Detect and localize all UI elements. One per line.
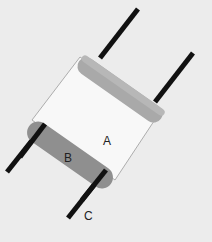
- label-a: A: [103, 134, 111, 148]
- component-diagram: A B C: [0, 0, 212, 242]
- label-b: B: [64, 151, 72, 165]
- label-c: C: [84, 209, 93, 223]
- lead-top-left: [100, 9, 138, 58]
- lead-top-right: [155, 53, 193, 102]
